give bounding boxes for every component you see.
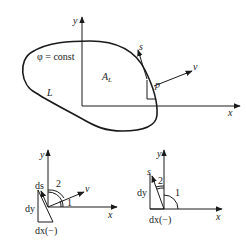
normal-arrow [48, 192, 84, 207]
diagram-canvas: y x φ = const L AL s v p y x ds dy dx(−)… [0, 0, 246, 249]
s-label: s [147, 166, 151, 177]
y-axis-label: y [39, 149, 45, 160]
tangent-arrow [138, 50, 147, 79]
area-label: AL [101, 71, 112, 84]
angle1-label: 1 [175, 187, 180, 198]
dy-label: dy [137, 187, 147, 198]
x-axis-label: x [215, 211, 221, 222]
bottom-left-figure: y x ds dy dx(−) v 1 2 [25, 149, 117, 237]
y-axis-label: y [156, 148, 162, 159]
normal-label: v [85, 183, 90, 194]
y-axis-label: y [72, 15, 78, 26]
angle1-label: 1 [67, 197, 72, 208]
ds-label: ds [35, 180, 44, 191]
bottom-right-figure: y x s dy dx(−) 1 2 [137, 148, 222, 226]
dy-label: dy [25, 203, 35, 214]
x-axis-label: x [107, 209, 113, 220]
normal-label: v [193, 61, 198, 72]
tangent-label: s [139, 41, 143, 52]
boundary-label: L [46, 87, 53, 98]
dx-label: dx(−) [149, 214, 171, 226]
point-label: p [154, 79, 160, 90]
dx-label: dx(−) [35, 225, 57, 237]
contour-label: φ = const [37, 51, 75, 62]
angle2-arc-outer [156, 186, 164, 187]
top-figure: y x φ = const L AL s v p [23, 15, 240, 131]
angle1-arc [62, 201, 63, 207]
angle2-label: 2 [56, 178, 61, 189]
angle2-arc [157, 188, 164, 189]
angle2-label: 2 [158, 175, 163, 186]
x-axis-label: x [227, 107, 233, 118]
